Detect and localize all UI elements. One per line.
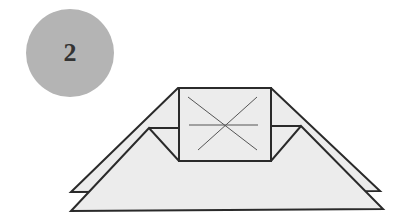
origami-diagram bbox=[0, 0, 402, 220]
